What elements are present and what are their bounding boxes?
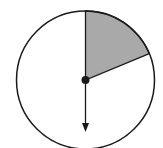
- shaded-sector: [86, 11, 150, 80]
- arrow-head-icon: [82, 123, 89, 132]
- spinner-diagram: [0, 0, 163, 148]
- center-pivot: [82, 76, 90, 84]
